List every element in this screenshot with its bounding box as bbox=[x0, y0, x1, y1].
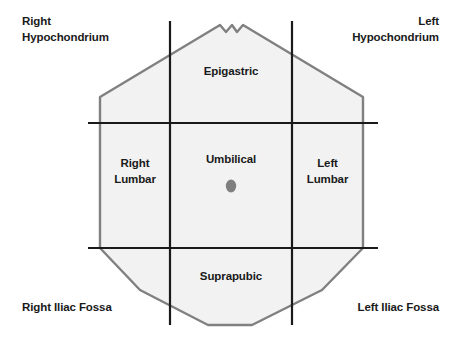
label-epigastric-region: Epigastric bbox=[171, 64, 291, 80]
label-left-lumbar-region: Left Lumbar bbox=[292, 156, 363, 187]
label-right-lumbar-region: Right Lumbar bbox=[100, 156, 170, 187]
label-suprapubic-region: Suprapubic bbox=[171, 269, 291, 285]
label-left-iliac-fossa: Left Iliac Fossa bbox=[358, 300, 439, 316]
abdomen-outline-figure bbox=[0, 0, 461, 344]
label-right-iliac-fossa: Right Iliac Fossa bbox=[22, 300, 112, 316]
label-umbilical-region: Umbilical bbox=[171, 152, 291, 168]
label-right-hypochondrium: Right Hypochondrium bbox=[22, 14, 109, 45]
label-left-hypochondrium: Left Hypochondrium bbox=[352, 14, 439, 45]
umbilicus-marker bbox=[226, 180, 236, 193]
abdominal-regions-diagram: Right Hypochondrium Left Hypochondrium R… bbox=[0, 0, 461, 344]
